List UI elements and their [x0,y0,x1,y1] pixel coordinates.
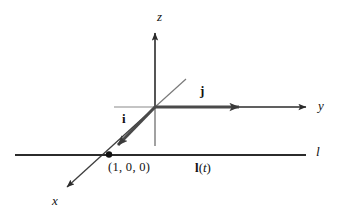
vector-j-label: j [200,84,204,97]
x-axis-label: x [52,194,58,207]
x-axis-negative-segment [155,79,186,107]
line-parametric-label: l(t) [195,161,211,174]
y-axis-label: y [318,99,324,112]
param-label-close-paren: ) [207,160,211,175]
line-l-label: l [316,145,320,159]
vector-diagram-figure: z y x i j l (1, 0, 0) l(t) [0,0,339,220]
z-axis-label: z [157,10,162,23]
diagram-canvas [0,0,339,220]
point-coordinate-label: (1, 0, 0) [108,161,150,174]
point-marker-1-0-0 [106,151,112,157]
vector-i-label: i [122,112,126,125]
